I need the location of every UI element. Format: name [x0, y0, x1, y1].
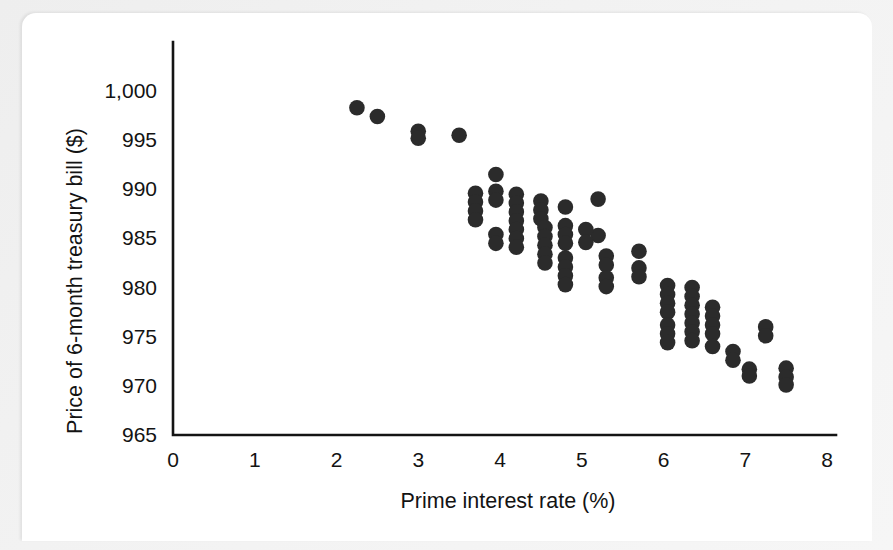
scatter-plot: 9659709759809859909951,000 012345678 Pri…	[22, 13, 872, 541]
y-tick-label: 970	[122, 374, 157, 397]
scatter-point	[660, 335, 676, 351]
scatter-point	[451, 127, 467, 143]
scatter-point	[684, 333, 700, 349]
x-tick-label: 3	[412, 448, 424, 471]
y-tick-label: 1,000	[104, 79, 157, 102]
x-tick-label: 4	[494, 448, 506, 471]
y-tick-label: 980	[122, 276, 157, 299]
scatter-point	[598, 279, 614, 295]
x-tick-label: 6	[658, 448, 670, 471]
scatter-point	[468, 212, 484, 228]
scatter-point	[509, 239, 525, 255]
scatter-point	[631, 243, 647, 259]
x-tick-label: 2	[331, 448, 343, 471]
scatter-point	[705, 339, 721, 355]
scatter-point	[537, 255, 553, 271]
y-tick-label: 990	[122, 177, 157, 200]
x-tick-label: 8	[821, 448, 833, 471]
x-axis-tick-labels: 012345678	[167, 448, 833, 471]
scatter-point	[590, 191, 606, 207]
scatter-point	[488, 192, 504, 208]
y-tick-label: 995	[122, 128, 157, 151]
scatter-point	[778, 377, 794, 393]
scatter-point	[488, 167, 504, 183]
scatter-point	[558, 277, 574, 293]
x-tick-label: 1	[249, 448, 261, 471]
y-axis-title: Price of 6-month treasury bill ($)	[63, 128, 87, 434]
scatter-point	[631, 269, 647, 285]
y-tick-label: 985	[122, 226, 157, 249]
scatter-point	[558, 199, 574, 215]
y-axis-tick-labels: 9659709759809859909951,000	[104, 79, 157, 446]
scatter-point	[558, 236, 574, 252]
x-tick-label: 5	[576, 448, 588, 471]
scatter-point	[742, 368, 758, 384]
scatter-point	[488, 236, 504, 252]
y-tick-label: 975	[122, 325, 157, 348]
y-tick-label: 965	[122, 423, 157, 446]
scatter-point	[410, 130, 426, 146]
x-axis-title: Prime interest rate (%)	[400, 489, 615, 513]
page-background: 9659709759809859909951,000 012345678 Pri…	[0, 0, 893, 550]
scatter-point	[349, 100, 365, 116]
scatter-point	[578, 235, 594, 251]
axis-lines	[173, 42, 836, 435]
figure-card: 9659709759809859909951,000 012345678 Pri…	[22, 13, 872, 541]
scatter-point	[725, 353, 741, 369]
data-points	[349, 100, 794, 393]
scatter-point	[370, 109, 386, 125]
x-tick-label: 0	[167, 448, 179, 471]
x-tick-label: 7	[739, 448, 751, 471]
scatter-point	[758, 328, 774, 344]
